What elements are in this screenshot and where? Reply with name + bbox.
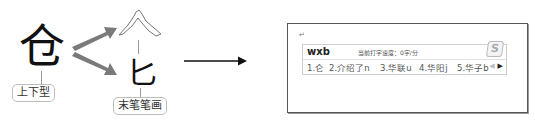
top-component-outline <box>116 8 164 38</box>
sogou-logo-icon[interactable]: S <box>486 41 504 57</box>
candidate-text: 华联u <box>388 63 411 73</box>
ime-candidate-window: wxb 当前打字速度：0字/分 S 1.仑 2.介绍了n 3.华联u 4.华阳j… <box>302 44 507 75</box>
ime-pager: ◀▶ <box>489 62 503 70</box>
candidate-text: 华阳j <box>427 63 447 73</box>
candidate-text: 介绍了n <box>337 63 369 73</box>
structure-label: 上下型 <box>12 84 55 102</box>
candidate-5[interactable]: 5.华子b <box>457 61 489 73</box>
candidate-index: 2. <box>329 63 337 73</box>
main-character: 仓 <box>19 23 65 69</box>
ime-input-code: wxb <box>307 46 330 57</box>
candidate-1[interactable]: 1.仑 <box>307 61 324 73</box>
candidate-index: 5. <box>457 63 465 73</box>
ime-composition-bar: wxb 当前打字速度：0字/分 S <box>303 45 506 60</box>
candidate-4[interactable]: 4.华阳j <box>419 61 448 73</box>
typing-speed-text: 当前打字速度：0字/分 <box>358 48 418 57</box>
candidate-index: 1. <box>307 63 315 73</box>
candidate-3[interactable]: 3.华联u <box>380 61 412 73</box>
candidate-index: 4. <box>419 63 427 73</box>
component-connector <box>138 40 139 54</box>
candidate-2[interactable]: 2.介绍了n <box>329 61 370 73</box>
ime-candidate-list: 1.仑 2.介绍了n 3.华联u 4.华阳j 5.华子b ◀▶ <box>303 60 506 74</box>
split-arrows <box>70 20 120 80</box>
next-page-icon[interactable]: ▶ <box>498 62 503 70</box>
right-arrow <box>183 55 249 67</box>
document-window: ↵ wxb 当前打字速度：0字/分 S 1.仑 2.介绍了n 3.华联u 4.华… <box>287 23 528 113</box>
structure-connector <box>41 71 42 85</box>
prev-page-icon[interactable]: ◀ <box>489 62 494 70</box>
last-stroke-label: 末笔笔画 <box>113 97 167 115</box>
bottom-component: 匕 <box>127 58 157 88</box>
paragraph-mark: ↵ <box>299 31 305 39</box>
candidate-text: 华子b <box>465 63 488 73</box>
candidate-index: 3. <box>380 63 388 73</box>
candidate-text: 仑 <box>315 63 324 73</box>
